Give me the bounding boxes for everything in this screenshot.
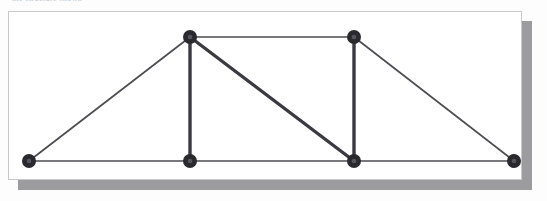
truss-diagram [0, 0, 547, 201]
figure-canvas: the structure shown [0, 0, 547, 201]
joint-pin [188, 35, 193, 40]
joint-pin [27, 159, 32, 164]
truss-joint-C [347, 154, 361, 168]
truss-joint-A [22, 154, 36, 168]
truss-member-m9 [190, 37, 354, 161]
truss-joint-F [347, 30, 361, 44]
joint-pin [512, 159, 517, 164]
truss-member-m5 [29, 37, 190, 161]
joint-pin [188, 159, 193, 164]
joint-pin [352, 159, 357, 164]
truss-member-m6 [354, 37, 514, 161]
truss-joint-D [507, 154, 521, 168]
truss-joint-E [183, 30, 197, 44]
truss-joint-B [183, 154, 197, 168]
joint-pin [352, 35, 357, 40]
truss-members-group [29, 37, 514, 161]
